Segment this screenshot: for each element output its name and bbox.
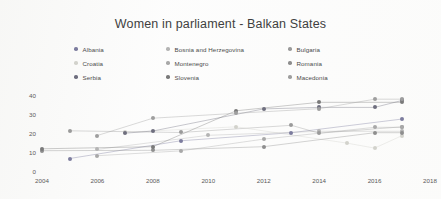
chart-container: Women in parliament - Balkan States Alba… bbox=[0, 0, 441, 199]
series-line bbox=[125, 100, 402, 133]
data-point bbox=[151, 148, 155, 152]
data-point bbox=[317, 131, 321, 135]
y-axis-tick-label: 40 bbox=[18, 92, 36, 99]
data-point bbox=[373, 97, 377, 101]
data-point bbox=[262, 137, 266, 141]
data-point bbox=[262, 107, 266, 111]
data-point bbox=[373, 125, 377, 129]
data-point bbox=[95, 147, 99, 151]
data-point bbox=[95, 134, 99, 138]
x-axis-tick-label: 2016 bbox=[360, 177, 390, 184]
data-point bbox=[289, 123, 293, 127]
data-point bbox=[234, 111, 238, 115]
data-point bbox=[179, 130, 183, 134]
data-point bbox=[373, 146, 377, 150]
x-axis-tick-label: 2004 bbox=[27, 177, 57, 184]
data-point bbox=[151, 116, 155, 120]
x-axis-tick-label: 2018 bbox=[415, 177, 441, 184]
data-point bbox=[151, 129, 155, 133]
x-axis-tick-label: 2014 bbox=[304, 177, 334, 184]
data-point bbox=[400, 131, 404, 135]
x-axis-tick-label: 2012 bbox=[249, 177, 279, 184]
data-point bbox=[317, 107, 321, 111]
data-point bbox=[179, 149, 183, 153]
data-point bbox=[234, 125, 238, 129]
data-point bbox=[373, 105, 377, 109]
data-point bbox=[317, 100, 321, 104]
x-axis-tick-label: 2008 bbox=[138, 177, 168, 184]
y-axis-tick-label: 20 bbox=[18, 130, 36, 137]
data-point bbox=[289, 131, 293, 135]
x-axis-tick-label: 2006 bbox=[82, 177, 112, 184]
data-point bbox=[123, 131, 127, 135]
data-point bbox=[68, 157, 72, 161]
data-point bbox=[345, 141, 349, 145]
data-point bbox=[400, 117, 404, 121]
data-point bbox=[262, 145, 266, 149]
plot-area: 0102030402004200620082010201220142016201… bbox=[0, 0, 441, 199]
y-axis-tick-label: 10 bbox=[18, 149, 36, 156]
data-point bbox=[68, 129, 72, 133]
x-axis-tick-label: 2010 bbox=[193, 177, 223, 184]
data-point bbox=[206, 133, 210, 137]
data-point bbox=[40, 147, 44, 151]
data-point bbox=[400, 97, 404, 101]
data-point bbox=[373, 131, 377, 135]
data-point bbox=[95, 154, 99, 158]
data-point bbox=[151, 145, 155, 149]
y-axis-tick-label: 0 bbox=[18, 168, 36, 175]
data-point bbox=[179, 139, 183, 143]
y-axis-tick-label: 30 bbox=[18, 111, 36, 118]
data-point bbox=[400, 125, 404, 129]
